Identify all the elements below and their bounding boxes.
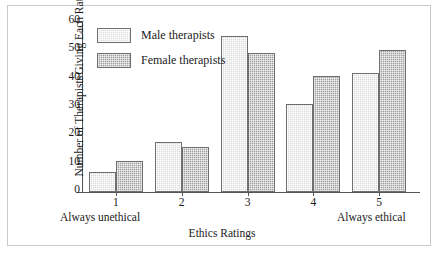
bar-female-rating-3 bbox=[248, 53, 275, 192]
y-axis-tick-label: 0 bbox=[74, 184, 80, 196]
legend-swatch-male-icon bbox=[97, 28, 131, 43]
legend-item-female: Female therapists bbox=[97, 50, 225, 70]
bar-female-rating-5 bbox=[379, 50, 406, 192]
bar-female-rating-2 bbox=[182, 147, 209, 192]
legend-item-male: Male therapists bbox=[97, 25, 225, 45]
figure-chart-container: 0102030405060 12345 Number of Therapists… bbox=[0, 0, 444, 264]
x-axis-tick-label-2: 2 bbox=[167, 197, 197, 209]
legend-swatch-female-icon bbox=[97, 53, 131, 68]
bar-female-rating-1 bbox=[116, 161, 143, 192]
bar-male-rating-1 bbox=[89, 172, 116, 192]
x-axis-left-anchor-label: Always unethical bbox=[60, 212, 140, 224]
y-axis-title-line1: Number of Therapists bbox=[73, 76, 86, 177]
x-axis-line bbox=[82, 192, 420, 193]
bar-male-rating-5 bbox=[352, 73, 379, 192]
bar-male-rating-4 bbox=[286, 104, 313, 192]
x-axis-right-anchor-label: Always ethical bbox=[337, 212, 406, 224]
bar-female-rating-4 bbox=[313, 76, 340, 192]
legend-label-male: Male therapists bbox=[141, 29, 215, 41]
legend-label-female: Female therapists bbox=[141, 54, 225, 66]
x-axis-tick-label-3: 3 bbox=[233, 197, 263, 209]
chart-legend: Male therapists Female therapists bbox=[97, 25, 225, 75]
x-axis-tick-label-4: 4 bbox=[298, 197, 328, 209]
x-axis-tick-label-5: 5 bbox=[364, 197, 394, 209]
x-axis-tick-label-1: 1 bbox=[101, 197, 131, 209]
x-axis-title: Ethics Ratings bbox=[0, 228, 444, 240]
bar-male-rating-2 bbox=[155, 142, 182, 192]
y-axis-title-line2: Giving Each Rating bbox=[73, 0, 86, 75]
y-axis-title: Number of Therapists Giving Each Rating bbox=[59, 0, 99, 165]
